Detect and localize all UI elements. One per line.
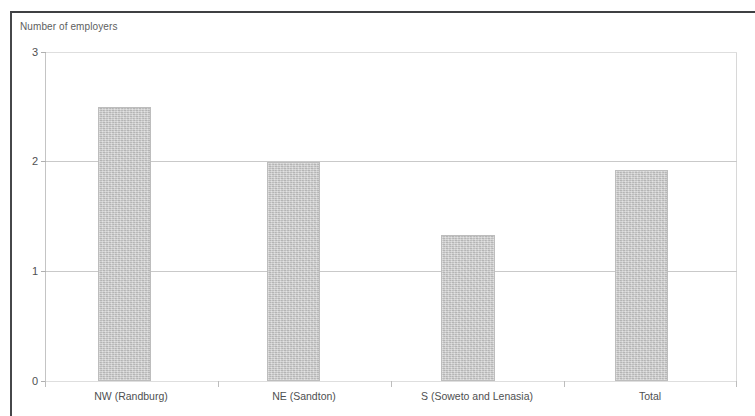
x-tick-mark-1 — [218, 381, 219, 387]
x-tick-mark-2 — [391, 381, 392, 387]
x-tick-mark-0 — [45, 381, 46, 387]
y-tick-mark-3 — [41, 52, 46, 53]
y-tick-mark-2 — [41, 161, 46, 162]
y-tick-label-1: 1 — [8, 265, 38, 277]
plot-area — [45, 52, 737, 381]
bar-total — [615, 170, 668, 381]
y-tick-mark-1 — [41, 271, 46, 272]
y-tick-label-0: 0 — [8, 375, 38, 387]
x-axis-label-s-soweto-lenasia: S (Soweto and Lenasia) — [421, 390, 533, 402]
bar-nw-randburg — [98, 107, 151, 381]
y-tick-label-3: 3 — [8, 46, 38, 58]
y-tick-label-2: 2 — [8, 155, 38, 167]
x-axis-label-nw-randburg: NW (Randburg) — [94, 390, 168, 402]
x-axis-label-total: Total — [639, 390, 661, 402]
x-axis-label-ne-sandton: NE (Sandton) — [272, 390, 336, 402]
x-tick-mark-3 — [564, 381, 565, 387]
bar-s-soweto-lenasia — [441, 235, 495, 381]
x-tick-mark-4 — [736, 381, 737, 387]
gridline-3 — [45, 52, 737, 53]
y-axis-title: Number of employers — [20, 21, 118, 32]
bar-ne-sandton — [267, 162, 320, 381]
